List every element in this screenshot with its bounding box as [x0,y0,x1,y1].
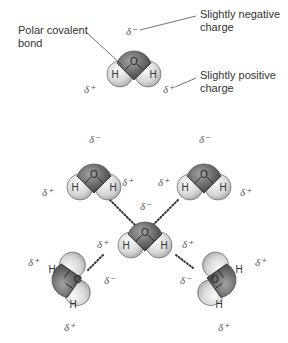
hydrogen-label-left: H [111,69,118,80]
delta-minus: δ⁻ [140,200,152,212]
leader-line-pos [175,78,196,87]
water-molecule-upper-left: O H H [67,164,121,200]
hydrogen-label: H [160,240,167,251]
hydrogen-label: H [69,299,76,310]
slightly-positive-charge-label: Slightly positive charge [200,69,279,94]
oxygen-label: O [74,274,82,285]
delta-plus: δ⁺ [182,238,194,250]
delta-plus: δ⁺ [255,256,267,268]
hydrogen-label: H [219,182,226,193]
delta-plus-left-top: δ⁺ [84,83,96,95]
hydrogen-label: H [215,299,222,310]
delta-minus-top: δ⁻ [126,25,138,37]
oxygen-label: O [130,56,138,67]
hydrogen-label: H [109,182,116,193]
hydrogen-label: H [71,182,78,193]
delta-plus: δ⁺ [97,238,109,250]
delta-minus: δ⁻ [199,133,211,145]
delta-plus: δ⁺ [218,321,230,333]
delta-plus-right-top: δ⁺ [163,83,175,95]
slightly-negative-charge-label: Slightly negative charge [200,8,283,33]
oxygen-label: O [211,274,219,285]
hydrogen-label: H [235,264,242,275]
hydrogen-label: H [181,182,188,193]
delta-plus: δ⁺ [240,186,252,198]
oxygen-label: O [141,227,149,238]
delta-minus: δ⁻ [180,274,192,286]
water-molecule-center: O H H [118,222,172,258]
water-molecule-upper-right: O H H [177,164,231,200]
water-hydrogen-bonding-diagram: O H H δ⁻ δ⁺ δ⁺ Polar covalent bond Sligh… [0,0,288,343]
polar-covalent-bond-label: Polar covalent bond [18,24,91,49]
leader-line-bond [86,32,122,65]
oxygen-label: O [90,169,98,180]
delta-plus: δ⁺ [158,176,170,188]
leader-line-neg [140,16,196,30]
delta-plus: δ⁺ [28,256,40,268]
delta-plus: δ⁺ [64,321,76,333]
water-molecule-top: O H H [107,51,161,87]
delta-plus: δ⁺ [122,176,134,188]
hydrogen-label: H [122,240,129,251]
hydrogen-label-right: H [149,69,156,80]
delta-plus: δ⁺ [42,186,54,198]
delta-minus: δ⁻ [104,274,116,286]
hydrogen-label: H [48,264,55,275]
oxygen-label: O [200,169,208,180]
delta-minus: δ⁻ [89,133,101,145]
